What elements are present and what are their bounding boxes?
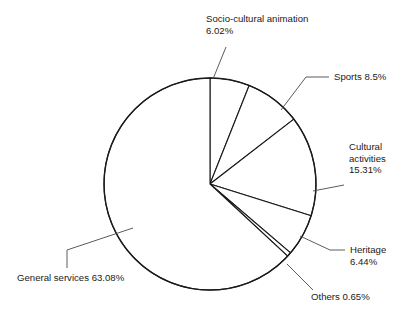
- callout-cultural-activities: Cultural activities 15.31%: [349, 141, 388, 175]
- callout-others-line1: Others 0.65%: [311, 291, 370, 302]
- callout-sports: Sports 8.5%: [334, 71, 387, 82]
- callout-heritage: Heritage 6.44%: [350, 244, 389, 267]
- callout-cultural-activities-line2: activities: [349, 153, 386, 164]
- callout-heritage-line2: 6.44%: [350, 256, 378, 267]
- callout-socio-cultural-animation-line2: 6.02%: [206, 25, 234, 36]
- callout-cultural-activities-line1: Cultural: [349, 141, 382, 152]
- pie-chart-figure: Socio-cultural animation 6.02% Sports 8.…: [0, 0, 415, 312]
- callout-socio-cultural-animation-line1: Socio-cultural animation: [206, 13, 308, 24]
- leader-line-sports: [281, 77, 329, 110]
- callout-cultural-activities-line3: 15.31%: [349, 164, 382, 175]
- leader-line-socio-cultural-animation: [213, 47, 226, 79]
- callout-others: Others 0.65%: [311, 291, 370, 302]
- leader-line-others: [287, 264, 313, 290]
- pie-slices-group: [104, 78, 316, 290]
- callout-sports-line1: Sports 8.5%: [334, 71, 387, 82]
- callout-socio-cultural-animation: Socio-cultural animation 6.02%: [206, 13, 311, 36]
- callout-general-services-line1: General services 63.08%: [17, 272, 125, 283]
- callout-heritage-line1: Heritage: [350, 244, 386, 255]
- pie-chart-svg: Socio-cultural animation 6.02% Sports 8.…: [0, 0, 415, 312]
- callout-general-services: General services 63.08%: [17, 272, 125, 283]
- leader-line-heritage: [300, 236, 345, 250]
- leader-line-cultural-activities: [313, 185, 344, 191]
